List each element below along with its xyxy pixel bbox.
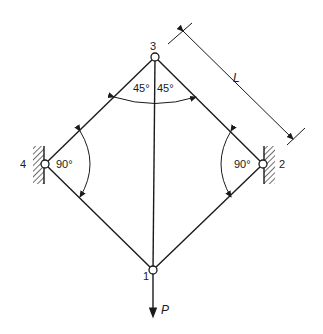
angle-arc-node2	[221, 131, 231, 197]
dimension-tick-top	[168, 23, 192, 44]
node-label-1: 1	[143, 270, 149, 282]
member-2-1	[153, 164, 263, 270]
member-3-1	[153, 57, 155, 270]
node-label-2: 2	[279, 158, 285, 170]
node-label-3: 3	[150, 40, 156, 52]
dimension-label-L: L	[233, 71, 240, 85]
member-4-1	[45, 164, 153, 270]
angle-arc-node4	[80, 131, 90, 197]
angle-label-node3-right: 45°	[157, 82, 174, 94]
node-3-pin	[151, 53, 159, 61]
angle-arcs	[80, 97, 231, 197]
member-3-2	[155, 57, 263, 164]
members	[45, 57, 263, 270]
angle-label-node4: 90°	[56, 158, 73, 170]
dimension-line	[183, 31, 293, 139]
member-3-4	[45, 57, 155, 164]
node-2-pin	[259, 160, 267, 168]
angle-label-node2: 90°	[234, 158, 251, 170]
node-1-pin	[149, 266, 157, 274]
load-label-P: P	[161, 303, 169, 317]
truss-diagram: 3 1 4 2 45° 45° 90° 90° L P	[0, 0, 323, 334]
angle-label-node3-left: 45°	[133, 82, 150, 94]
node-4-pin	[41, 160, 49, 168]
node-label-4: 4	[20, 158, 26, 170]
dimension-tick-bottom	[287, 128, 305, 145]
